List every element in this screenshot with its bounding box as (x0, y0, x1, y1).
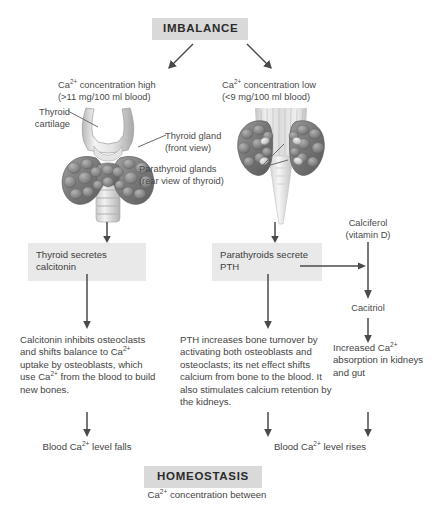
thyroid-cartilage-label-line2: cartilage (8, 119, 70, 131)
imbalance-title: IMBALANCE (152, 18, 248, 40)
left-condition-caption: Ca2+ concentration high (>11 mg/100 ml b… (58, 80, 218, 103)
right-arrow-to-parathyroid-box (268, 222, 282, 244)
parathyroid-label-line1: Parathyroid glands (139, 164, 269, 176)
calciferol-line2: (vitamin D) (320, 230, 416, 242)
blood-calcium-rises-text: Blood Ca2+ level rises (255, 441, 385, 453)
parathyroid-glands-label: Parathyroid glands (rear view of thyroid… (139, 164, 269, 187)
pth-effect-text: PTH increases bone turnover by activatin… (180, 334, 332, 408)
cacitriol-down-arrow (361, 318, 375, 344)
imbalance-branch-arrows (145, 40, 295, 76)
cacitriol-label: Cacitriol (322, 303, 414, 315)
homeostasis-caption: Ca2+ concentration between (122, 489, 292, 501)
parathyroids-secrete-text: Parathyroids secrete PTH (220, 249, 308, 272)
homeostasis-title: HOMEOSTASIS (144, 466, 262, 488)
calcitonin-effect-text: Calcitonin inhibits osteoclasts and shif… (20, 334, 160, 396)
thyroid-cartilage-label: Thyroid cartilage (8, 107, 70, 130)
absorption-to-outcome-arrow (361, 412, 375, 438)
thyroid-cartilage-label-line1: Thyroid (8, 107, 70, 119)
thyroid-box-down-arrow (80, 274, 94, 330)
calcium-absorption-text: Increased Ca2+ absorption in kidneys and… (333, 342, 428, 379)
left-condition-line2: (>11 mg/100 ml blood) (58, 92, 218, 104)
parathyroid-box-down-arrow (261, 274, 275, 330)
pth-to-outcome-arrow (261, 412, 275, 438)
left-arrow-to-thyroid-box (100, 222, 114, 244)
calciferol-line1: Calciferol (320, 218, 416, 230)
right-condition-caption: Ca2+ concentration low (<9 mg/100 ml blo… (222, 80, 382, 103)
thyroid-gland-leader-line (136, 132, 168, 150)
parathyroid-leader-lines (258, 140, 300, 174)
diagram-canvas: IMBALANCE Ca2+ concentration high (>11 m… (0, 0, 433, 506)
right-condition-line2: (<9 mg/100 ml blood) (222, 92, 382, 104)
thyroid-cartilage-leader-line (68, 108, 102, 132)
left-condition-line1: Ca2+ concentration high (58, 80, 218, 92)
parathyroid-label-line2: (rear view of thyroid) (139, 176, 269, 188)
calciferol-to-cacitriol-connectors (300, 242, 390, 304)
calciferol-label: Calciferol (vitamin D) (320, 218, 416, 241)
calcitonin-to-outcome-arrow (80, 412, 94, 438)
thyroid-secretes-text: Thyroid secretes calcitonin (36, 249, 107, 272)
right-condition-line1: Ca2+ concentration low (222, 80, 382, 92)
blood-calcium-falls-text: Blood Ca2+ level falls (22, 441, 152, 453)
